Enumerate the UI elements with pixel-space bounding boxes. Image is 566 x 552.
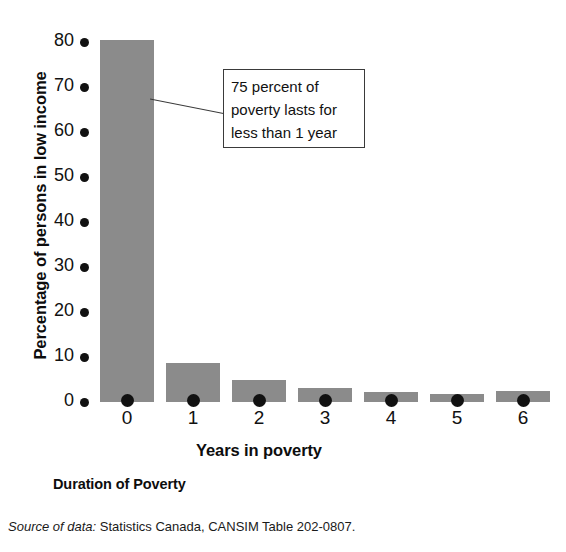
x-tick-label: 6 xyxy=(503,408,543,429)
x-tick-marker xyxy=(385,394,398,407)
x-tick-marker xyxy=(451,394,464,407)
annotation-line-2: poverty lasts for xyxy=(231,99,364,122)
y-tick-marker xyxy=(80,353,89,362)
y-tick-marker xyxy=(80,173,89,182)
y-tick-label: 40 xyxy=(34,211,74,229)
y-tick-label: 30 xyxy=(34,256,74,274)
y-tick-label: 70 xyxy=(34,76,74,94)
y-tick-label: 80 xyxy=(34,31,74,49)
chart-caption: Duration of Poverty xyxy=(53,476,186,492)
x-tick-label: 0 xyxy=(107,408,147,429)
x-tick-marker xyxy=(187,394,200,407)
y-tick-marker xyxy=(80,398,89,407)
x-tick-label: 4 xyxy=(371,408,411,429)
source-note: Source of data: Statistics Canada, CANSI… xyxy=(8,519,355,534)
annotation-line-3: less than 1 year xyxy=(231,122,364,145)
y-tick-marker xyxy=(80,38,89,47)
poverty-duration-figure: Percentage of persons in low income 0102… xyxy=(0,0,566,552)
y-tick-label: 10 xyxy=(34,346,74,364)
x-tick-marker xyxy=(253,394,266,407)
x-tick-marker xyxy=(319,394,332,407)
annotation-line-1: 75 percent of xyxy=(231,76,364,99)
y-tick-label: 50 xyxy=(34,166,74,184)
x-tick-label: 5 xyxy=(437,408,477,429)
source-label: Source of data: xyxy=(8,519,96,534)
y-axis-tick-labels: 01020304050607080 xyxy=(34,0,74,420)
x-tick-label: 3 xyxy=(305,408,345,429)
y-tick-marker xyxy=(80,218,89,227)
y-tick-label: 20 xyxy=(34,301,74,319)
x-tick-label: 1 xyxy=(173,408,213,429)
y-tick-marker xyxy=(80,308,89,317)
x-tick-marker xyxy=(121,394,134,407)
source-text: Statistics Canada, CANSIM Table 202-0807… xyxy=(100,519,356,534)
y-tick-label: 60 xyxy=(34,121,74,139)
y-tick-marker xyxy=(80,128,89,137)
y-tick-label: 0 xyxy=(34,391,74,409)
y-axis-tick-markers xyxy=(80,0,94,420)
x-axis-tick-markers xyxy=(94,0,556,420)
x-axis-tick-labels: 0123456 xyxy=(94,408,556,434)
y-tick-marker xyxy=(80,263,89,272)
x-tick-label: 2 xyxy=(239,408,279,429)
x-tick-marker xyxy=(517,394,530,407)
annotation-callout: 75 percent of poverty lasts for less tha… xyxy=(223,69,365,148)
x-axis-title: Years in poverty xyxy=(94,441,424,460)
y-tick-marker xyxy=(80,83,89,92)
